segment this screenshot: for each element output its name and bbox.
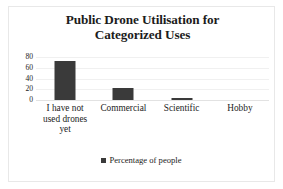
x-axis-category-line: used drones [36, 114, 94, 125]
chart-title: Public Drone Utilisation for Categorized… [21, 12, 264, 42]
legend-marker-icon [101, 158, 106, 163]
x-axis-category-line: I have not [36, 103, 94, 114]
bar-slot [211, 57, 269, 100]
bar-slot [153, 57, 211, 100]
x-axis-category-label: Hobby [211, 103, 269, 114]
y-axis-tick-label: 20 [25, 85, 33, 93]
y-axis-tick-label: 80 [25, 53, 33, 61]
bar[interactable] [171, 98, 192, 100]
chart-title-line-2: Categorized Uses [21, 27, 264, 42]
chart-title-line-1: Public Drone Utilisation for [21, 12, 264, 27]
chart-container: Public Drone Utilisation for Categorized… [8, 6, 275, 182]
chart-legend: Percentage of people [9, 155, 274, 165]
x-axis-category-line: Hobby [211, 103, 269, 114]
y-axis-tick-label: 0 [29, 96, 33, 104]
y-axis-tick-label: 40 [25, 75, 33, 83]
y-axis-tick-label: 60 [25, 64, 33, 72]
bar-slot [36, 57, 94, 100]
bars-layer [36, 57, 269, 100]
x-axis: I have notused dronesyetCommercialScient… [36, 103, 269, 143]
legend-label: Percentage of people [109, 155, 181, 165]
axis-baseline [36, 100, 269, 101]
x-axis-category-line: yet [36, 124, 94, 135]
x-axis-category-label: I have notused dronesyet [36, 103, 94, 135]
x-axis-category-line: Commercial [94, 103, 152, 114]
bar-slot [94, 57, 152, 100]
bar[interactable] [55, 61, 76, 100]
y-axis: 806040200 [11, 57, 33, 100]
x-axis-category-label: Scientific [153, 103, 211, 114]
x-axis-category-label: Commercial [94, 103, 152, 114]
bar[interactable] [113, 88, 134, 100]
x-axis-category-line: Scientific [153, 103, 211, 114]
